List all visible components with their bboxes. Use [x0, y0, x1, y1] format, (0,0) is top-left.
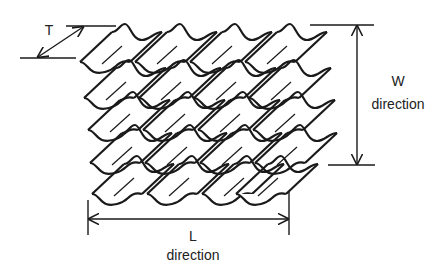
t-label: T: [41, 22, 57, 38]
w-dimension: [310, 25, 375, 165]
honeycomb-core: [80, 24, 337, 205]
w-direction-label: direction: [362, 96, 434, 112]
w-letter-label: W: [370, 73, 426, 89]
l-letter-label: L: [165, 228, 221, 244]
l-direction-label: direction: [157, 247, 229, 263]
